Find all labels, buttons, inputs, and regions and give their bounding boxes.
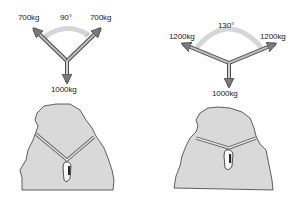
carabiner-icon bbox=[224, 150, 233, 170]
panel-130-degrees: 130° 1200kg 1200kg 1000kg bbox=[150, 0, 300, 199]
right-force-label: 700kg bbox=[90, 13, 111, 22]
angle-label: 130° bbox=[218, 21, 234, 30]
force-arrow-left-icon bbox=[183, 44, 229, 63]
panel-90-degrees: 700kg 90° 700kg 1000kg bbox=[0, 0, 150, 199]
right-force-label: 1200kg bbox=[260, 32, 286, 41]
force-diagram-90 bbox=[0, 0, 150, 199]
angle-label: 90° bbox=[60, 13, 72, 22]
left-force-label: 1200kg bbox=[169, 32, 195, 41]
left-force-label: 700kg bbox=[18, 13, 39, 22]
force-arrow-right-icon bbox=[229, 44, 275, 63]
load-label: 1000kg bbox=[51, 85, 77, 94]
load-label: 1000kg bbox=[212, 89, 238, 98]
angle-arc-icon bbox=[198, 29, 260, 46]
carabiner-icon bbox=[63, 162, 71, 182]
rock-horn-icon bbox=[174, 107, 273, 190]
angle-arc-icon bbox=[44, 28, 89, 38]
